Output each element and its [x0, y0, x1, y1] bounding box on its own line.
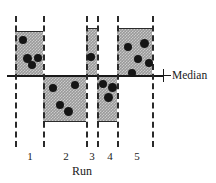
run-block-2	[43, 76, 86, 122]
median-label: Median	[172, 69, 207, 81]
data-point	[71, 81, 79, 89]
run-separator-3	[86, 16, 88, 147]
data-point	[34, 54, 42, 62]
data-point	[99, 80, 107, 88]
run-tick-label-2: 2	[60, 150, 72, 162]
median-leader	[163, 75, 171, 76]
data-point	[134, 55, 142, 63]
median-line	[7, 75, 163, 77]
data-point	[64, 107, 73, 116]
run-separator-6	[152, 16, 154, 147]
run-tick-label-5: 5	[131, 150, 143, 162]
run-separator-2	[43, 16, 45, 147]
data-point	[49, 84, 57, 92]
data-point	[108, 83, 117, 92]
x-axis-title: Run	[72, 165, 92, 178]
data-point	[19, 36, 27, 44]
data-point	[145, 59, 153, 67]
run-chart-figure: Median 1 2 3 4 5 Run	[0, 0, 216, 183]
data-point	[56, 101, 64, 109]
run-separator-5	[117, 16, 119, 147]
run-tick-label-4: 4	[104, 150, 116, 162]
run-tick-label-3: 3	[86, 150, 98, 162]
run-tick-label-1: 1	[24, 150, 36, 162]
data-point	[128, 69, 136, 77]
data-point	[124, 43, 132, 51]
data-point	[87, 53, 95, 61]
data-point	[104, 93, 113, 102]
run-separator-1	[15, 16, 17, 147]
data-point	[28, 61, 36, 69]
data-point	[140, 39, 149, 48]
